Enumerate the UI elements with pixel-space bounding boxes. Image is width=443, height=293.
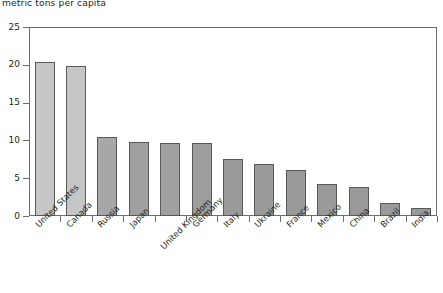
bar	[223, 159, 243, 216]
x-axis-labels: United StatesCanadaRussiaJapanUnited Kin…	[0, 216, 443, 293]
bar	[160, 143, 180, 216]
bar-chart: metric tons per capita 2520151050 United…	[0, 0, 443, 293]
bar	[35, 62, 55, 216]
bar	[129, 142, 149, 216]
